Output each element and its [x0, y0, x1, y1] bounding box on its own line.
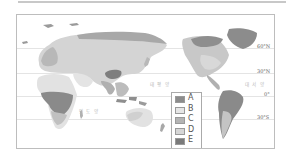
legend-item-a: A	[175, 94, 201, 104]
legend-label-b: B	[188, 104, 194, 113]
continents-shapes	[17, 15, 274, 148]
map-legend: A B C D E	[171, 92, 202, 149]
legend-label-e: E	[188, 135, 193, 144]
legend-swatch-c	[175, 117, 185, 124]
legend-swatch-a	[175, 96, 185, 103]
legend-item-d: D	[175, 126, 201, 136]
latitude-label-30n: 30°N	[257, 68, 270, 74]
top-divider	[18, 1, 286, 3]
ocean-label-atlantic: 대 서 양	[245, 81, 265, 87]
legend-label-d: D	[188, 125, 194, 134]
ocean-label-pacific: 태 평 양	[150, 81, 170, 87]
legend-item-c: C	[175, 115, 201, 125]
legend-swatch-d	[175, 128, 185, 135]
legend-item-e: E	[175, 136, 201, 146]
world-map: 60°N 30°N 0° 30°S 태 평 양 대 서 양 인 도 양 A B …	[16, 14, 275, 149]
legend-item-b: B	[175, 105, 201, 115]
ocean-label-indian: 인 도 양	[79, 108, 99, 114]
legend-swatch-e	[175, 138, 185, 145]
latitude-label-30s: 30°S	[257, 114, 269, 120]
legend-label-a: A	[188, 93, 193, 102]
latitude-label-equator: 0°	[264, 91, 270, 97]
legend-label-c: C	[188, 114, 194, 123]
latitude-label-60n: 60°N	[257, 43, 270, 49]
legend-swatch-b	[175, 107, 185, 114]
